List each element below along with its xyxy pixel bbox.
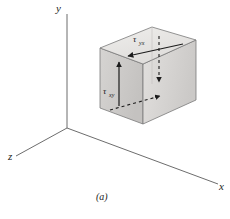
z-axis-label: z [7, 150, 13, 162]
tau-yx-subscript: yx [138, 40, 145, 46]
stress-element-figure: y x z τ yx τ xy (a) [0, 0, 230, 219]
y-axis-label: y [55, 2, 61, 14]
x-axis-label: x [218, 180, 224, 192]
z-axis-line [16, 128, 67, 156]
cube-element [100, 27, 196, 124]
figure-caption: (a) [96, 191, 108, 203]
figure-canvas: y x z τ yx τ xy (a) [0, 0, 230, 219]
x-axis-line [67, 128, 218, 184]
tau-xy-subscript: xy [108, 92, 115, 98]
